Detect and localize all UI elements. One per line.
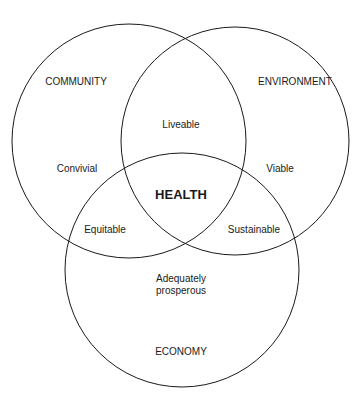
label-economy: ECONOMY xyxy=(155,346,207,358)
label-health: HEALTH xyxy=(155,189,207,201)
label-liveable: Liveable xyxy=(162,119,199,131)
environment-circle xyxy=(121,27,349,255)
label-convivial: Convivial xyxy=(57,163,98,175)
label-community: COMMUNITY xyxy=(45,76,107,88)
label-environment: ENVIRONMENT xyxy=(258,76,332,88)
label-sustainable: Sustainable xyxy=(228,224,280,236)
label-equitable: Equitable xyxy=(84,224,126,236)
label-viable: Viable xyxy=(266,163,294,175)
venn-diagram: COMMUNITY ENVIRONMENT Liveable Convivial… xyxy=(0,0,360,407)
label-adequately: Adequately xyxy=(156,273,206,285)
label-prosperous: prosperous xyxy=(156,285,206,297)
community-circle xyxy=(12,24,246,258)
